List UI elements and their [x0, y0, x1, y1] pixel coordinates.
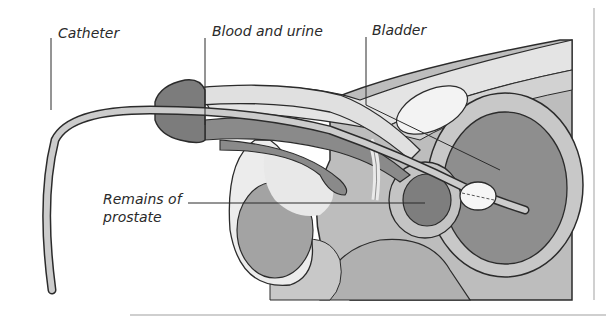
catheter-diagram: Catheter Blood and urine Bladder Remains…: [0, 0, 606, 329]
label-blood-and-urine: Blood and urine: [212, 23, 323, 39]
label-remains-of-prostate-line2: prostate: [103, 209, 162, 225]
label-bladder: Bladder: [372, 22, 426, 38]
label-remains-of-prostate-line1: Remains of: [103, 191, 182, 207]
label-catheter: Catheter: [58, 25, 119, 41]
anatomy-illustration: [0, 0, 606, 329]
